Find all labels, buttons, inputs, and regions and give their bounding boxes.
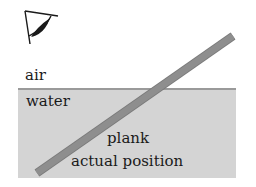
water-label: water [26,92,71,110]
plank-label: plank [107,129,150,147]
actual-position-label: actual position [71,152,184,170]
refraction-diagram: air water plank actual position [0,0,256,187]
eye-icon [25,11,58,44]
air-label: air [25,66,47,84]
